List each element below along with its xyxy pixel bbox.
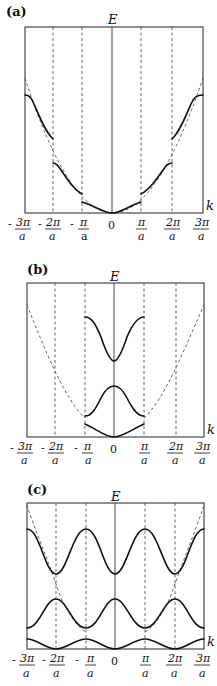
svg-text:a: a <box>21 454 28 467</box>
svg-text:2π: 2π <box>49 652 65 665</box>
tick-zero: 0 <box>108 219 115 232</box>
panel-b-free-parabola-right <box>144 305 204 418</box>
panel-c-band-3 <box>27 529 204 574</box>
svg-text:a: a <box>87 667 94 680</box>
tick-neg-pi: - π a <box>75 652 96 680</box>
svg-text:2π: 2π <box>45 216 61 229</box>
panel-b-energy-label: E <box>109 269 120 284</box>
svg-text:2π: 2π <box>168 440 184 453</box>
panel-a-free-electron-parabola <box>25 78 203 213</box>
panel-b-band-1 <box>85 424 144 437</box>
tick-neg-pi: - π a <box>74 440 93 467</box>
panel-b-band-2 <box>85 386 144 416</box>
tick-2pi: 2π a <box>164 216 181 243</box>
tick-2pi: 2π a <box>166 652 183 680</box>
tick-pi: π a <box>139 440 150 467</box>
svg-text:-: - <box>12 654 16 667</box>
tick-neg-2pi: - 2π a <box>42 652 65 680</box>
panel-c-free-parabola-right <box>145 505 204 632</box>
svg-text:a: a <box>198 230 205 243</box>
panel-b-x-ticks: - 3π a - 2π a - π a 0 π a 2π a 3π <box>10 440 211 467</box>
panel-c-label: (c) <box>27 482 47 497</box>
panel-a-frame <box>25 27 203 213</box>
tick-3pi: 3π a <box>194 652 211 680</box>
tick-neg-3pi: - 3π a <box>10 440 33 467</box>
panel-b-band-3 <box>85 317 144 361</box>
svg-text:-: - <box>8 218 12 231</box>
panel-c-free-parabola-left <box>27 505 86 632</box>
panel-c-frame <box>27 503 204 649</box>
tick-zero: 0 <box>111 655 118 668</box>
svg-text:-: - <box>74 442 78 455</box>
svg-text:a: a <box>169 230 176 243</box>
panel-a-energy-label: E <box>107 12 118 27</box>
panel-a-x-ticks: - 3π a - 2π a - π a 0 π a 2π a 3π <box>8 216 210 243</box>
svg-text:a: a <box>52 454 59 467</box>
panel-c-band-1 <box>27 639 204 649</box>
tick-zero: 0 <box>110 443 117 456</box>
panel-a-band-2-right <box>141 163 172 194</box>
panel-b-k-label: k <box>207 422 215 437</box>
panel-c-energy-label: E <box>110 489 121 504</box>
panel-b: (b) E k <box>27 262 215 437</box>
svg-text:2π: 2π <box>165 216 181 229</box>
panel-b-free-parabola-left <box>27 305 85 418</box>
svg-text:3π: 3π <box>195 216 210 229</box>
tick-neg-pi: - π a <box>70 216 89 243</box>
band-structure-figure: (a) E k - 3π a - 2π a - <box>0 0 217 686</box>
svg-text:a: a <box>85 454 92 467</box>
svg-text:a: a <box>141 454 148 467</box>
panel-a-band-2-left <box>53 163 82 194</box>
tick-neg-2pi: - 2π a <box>41 440 64 467</box>
tick-3pi: 3π a <box>193 216 210 243</box>
svg-text:π: π <box>137 216 146 229</box>
tick-neg-3pi: - 3π a <box>8 216 31 243</box>
panel-a-label: (a) <box>6 4 27 19</box>
tick-pi: π a <box>136 216 147 243</box>
svg-text:a: a <box>81 230 88 243</box>
svg-text:-: - <box>75 654 79 667</box>
svg-text:π: π <box>140 440 149 453</box>
svg-text:a: a <box>199 667 206 680</box>
svg-text:3π: 3π <box>20 652 35 665</box>
svg-text:3π: 3π <box>196 652 211 665</box>
svg-text:2π: 2π <box>48 440 64 453</box>
svg-text:a: a <box>23 667 30 680</box>
panel-a-band-3-right <box>172 95 203 139</box>
tick-pi: π a <box>140 652 151 680</box>
panel-a: (a) E k <box>6 4 214 213</box>
svg-text:a: a <box>172 454 179 467</box>
panel-a-band-1 <box>82 202 141 213</box>
svg-text:-: - <box>10 442 14 455</box>
svg-text:3π: 3π <box>196 440 211 453</box>
tick-3pi: 3π a <box>194 440 211 467</box>
svg-text:3π: 3π <box>16 216 31 229</box>
svg-text:π: π <box>79 216 88 229</box>
panel-c-x-ticks: - 3π a - 2π a - π a 0 π a 2π a 3π <box>12 652 211 680</box>
panel-a-band-3-left <box>25 95 53 139</box>
panel-c: (c) E k <box>27 482 215 649</box>
svg-text:3π: 3π <box>18 440 33 453</box>
svg-text:-: - <box>41 442 45 455</box>
tick-neg-2pi: - 2π a <box>38 216 61 243</box>
svg-text:π: π <box>83 440 92 453</box>
svg-text:π: π <box>86 652 95 665</box>
panel-b-label: (b) <box>27 262 48 277</box>
svg-text:a: a <box>138 230 145 243</box>
tick-2pi: 2π a <box>167 440 184 467</box>
svg-text:a: a <box>199 454 206 467</box>
tick-neg-3pi: - 3π a <box>12 652 35 680</box>
svg-text:a: a <box>171 667 178 680</box>
svg-text:a: a <box>49 230 56 243</box>
svg-text:a: a <box>142 667 149 680</box>
panel-a-k-label: k <box>206 198 214 213</box>
svg-text:-: - <box>70 218 74 231</box>
panel-c-band-2 <box>27 599 204 628</box>
svg-text:-: - <box>38 218 42 231</box>
svg-text:a: a <box>53 667 60 680</box>
svg-text:π: π <box>141 652 150 665</box>
panel-c-k-label: k <box>207 634 215 649</box>
svg-text:-: - <box>42 654 46 667</box>
svg-text:2π: 2π <box>167 652 183 665</box>
svg-text:a: a <box>19 230 26 243</box>
